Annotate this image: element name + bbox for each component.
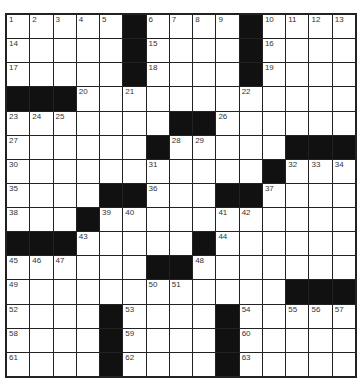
grid-cell[interactable]	[216, 87, 238, 110]
grid-cell[interactable]: 17	[7, 63, 29, 86]
grid-cell[interactable]: 61	[7, 353, 29, 376]
grid-cell[interactable]: 47	[54, 256, 76, 279]
grid-cell[interactable]	[240, 136, 262, 159]
grid-cell[interactable]: 51	[170, 280, 192, 303]
grid-cell[interactable]: 49	[7, 280, 29, 303]
grid-cell[interactable]	[100, 63, 122, 86]
grid-cell[interactable]	[170, 160, 192, 183]
grid-cell[interactable]	[100, 280, 122, 303]
grid-cell[interactable]: 9	[216, 15, 238, 38]
grid-cell[interactable]	[193, 63, 215, 86]
grid-cell[interactable]: 19	[263, 63, 285, 86]
grid-cell[interactable]	[216, 280, 238, 303]
grid-cell[interactable]	[263, 353, 285, 376]
grid-cell[interactable]	[170, 208, 192, 231]
grid-cell[interactable]	[286, 87, 308, 110]
grid-cell[interactable]: 29	[193, 136, 215, 159]
grid-cell[interactable]	[147, 87, 169, 110]
grid-cell[interactable]: 53	[123, 305, 145, 328]
grid-cell[interactable]	[77, 39, 99, 62]
grid-cell[interactable]	[54, 136, 76, 159]
grid-cell[interactable]	[286, 39, 308, 62]
grid-cell[interactable]	[30, 136, 52, 159]
grid-cell[interactable]: 8	[193, 15, 215, 38]
grid-cell[interactable]	[263, 256, 285, 279]
grid-cell[interactable]	[100, 112, 122, 135]
grid-cell[interactable]: 46	[30, 256, 52, 279]
grid-cell[interactable]: 62	[123, 353, 145, 376]
grid-cell[interactable]	[333, 256, 355, 279]
grid-cell[interactable]	[123, 136, 145, 159]
grid-cell[interactable]	[30, 184, 52, 207]
grid-cell[interactable]	[54, 305, 76, 328]
grid-cell[interactable]: 5	[100, 15, 122, 38]
grid-cell[interactable]: 25	[54, 112, 76, 135]
grid-cell[interactable]	[309, 208, 331, 231]
grid-cell[interactable]: 42	[240, 208, 262, 231]
grid-cell[interactable]	[77, 63, 99, 86]
grid-cell[interactable]: 16	[263, 39, 285, 62]
grid-cell[interactable]	[263, 232, 285, 255]
grid-cell[interactable]: 55	[286, 305, 308, 328]
grid-cell[interactable]	[170, 87, 192, 110]
grid-cell[interactable]: 44	[216, 232, 238, 255]
grid-cell[interactable]	[286, 232, 308, 255]
grid-cell[interactable]	[54, 353, 76, 376]
grid-cell[interactable]: 54	[240, 305, 262, 328]
grid-cell[interactable]: 6	[147, 15, 169, 38]
grid-cell[interactable]: 23	[7, 112, 29, 135]
grid-cell[interactable]: 58	[7, 329, 29, 352]
grid-cell[interactable]: 57	[333, 305, 355, 328]
grid-cell[interactable]	[54, 63, 76, 86]
grid-cell[interactable]	[263, 305, 285, 328]
grid-cell[interactable]	[333, 87, 355, 110]
grid-cell[interactable]: 14	[7, 39, 29, 62]
grid-cell[interactable]	[54, 39, 76, 62]
grid-cell[interactable]: 1	[7, 15, 29, 38]
grid-cell[interactable]	[216, 63, 238, 86]
grid-cell[interactable]	[240, 112, 262, 135]
grid-cell[interactable]	[333, 353, 355, 376]
grid-cell[interactable]	[286, 63, 308, 86]
grid-cell[interactable]: 7	[170, 15, 192, 38]
grid-cell[interactable]	[77, 184, 99, 207]
grid-cell[interactable]: 18	[147, 63, 169, 86]
grid-cell[interactable]	[286, 208, 308, 231]
grid-cell[interactable]	[54, 184, 76, 207]
grid-cell[interactable]	[333, 232, 355, 255]
grid-cell[interactable]: 4	[77, 15, 99, 38]
grid-cell[interactable]: 48	[193, 256, 215, 279]
grid-cell[interactable]: 40	[123, 208, 145, 231]
grid-cell[interactable]: 60	[240, 329, 262, 352]
grid-cell[interactable]	[77, 329, 99, 352]
grid-cell[interactable]	[77, 305, 99, 328]
grid-cell[interactable]	[77, 353, 99, 376]
grid-cell[interactable]	[123, 280, 145, 303]
grid-cell[interactable]: 37	[263, 184, 285, 207]
grid-cell[interactable]: 20	[77, 87, 99, 110]
grid-cell[interactable]	[263, 87, 285, 110]
grid-cell[interactable]: 24	[30, 112, 52, 135]
grid-cell[interactable]	[263, 280, 285, 303]
grid-cell[interactable]: 26	[216, 112, 238, 135]
grid-cell[interactable]	[54, 208, 76, 231]
grid-cell[interactable]	[333, 112, 355, 135]
grid-cell[interactable]	[193, 160, 215, 183]
grid-cell[interactable]	[240, 232, 262, 255]
grid-cell[interactable]	[333, 329, 355, 352]
grid-cell[interactable]	[216, 160, 238, 183]
grid-cell[interactable]: 10	[263, 15, 285, 38]
grid-cell[interactable]: 11	[286, 15, 308, 38]
grid-cell[interactable]: 35	[7, 184, 29, 207]
grid-cell[interactable]	[286, 329, 308, 352]
grid-cell[interactable]	[333, 208, 355, 231]
grid-cell[interactable]	[30, 305, 52, 328]
grid-cell[interactable]	[77, 280, 99, 303]
grid-cell[interactable]	[54, 329, 76, 352]
grid-cell[interactable]: 33	[309, 160, 331, 183]
grid-cell[interactable]	[77, 136, 99, 159]
grid-cell[interactable]	[147, 353, 169, 376]
grid-cell[interactable]	[77, 160, 99, 183]
grid-cell[interactable]: 22	[240, 87, 262, 110]
grid-cell[interactable]	[30, 63, 52, 86]
